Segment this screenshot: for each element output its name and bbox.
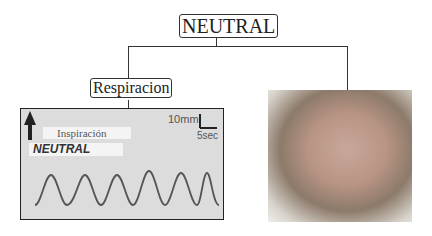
connector-right-down: [347, 46, 348, 90]
respiration-chart: Inspiración 10mm 5sec NEUTRAL: [20, 108, 224, 220]
connector-resp-to-chart: [128, 100, 129, 108]
inspiration-label: Inspiración: [57, 127, 106, 139]
inspiration-arrow-icon: [24, 111, 36, 140]
condition-label: NEUTRAL: [33, 142, 90, 156]
connector-horizontal: [128, 46, 348, 47]
respiration-chart-svg: [21, 109, 222, 218]
scale-horizontal-label: 5sec: [197, 130, 218, 141]
connector-left-down: [128, 46, 129, 78]
respiracion-node-label: Respiracion: [90, 78, 172, 98]
root-node-label: NEUTRAL: [179, 14, 278, 38]
scale-vertical-label: 10mm: [168, 113, 199, 125]
face-photo: [268, 90, 412, 222]
respiration-waveform: [35, 171, 219, 205]
scale-bar-icon: [200, 114, 217, 128]
